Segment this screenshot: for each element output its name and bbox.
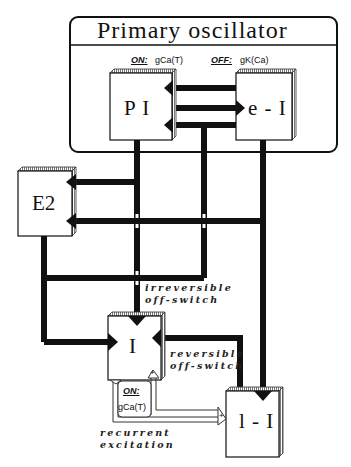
- diagram-canvas: [0, 0, 351, 467]
- node-ei-label: e - I: [248, 96, 287, 121]
- irreversible-line2: off-switch: [145, 294, 233, 306]
- i-on-label: ON:: [123, 386, 140, 396]
- reversible-line1: reversible: [170, 348, 245, 360]
- recurrent-line1: recurrent: [100, 427, 175, 439]
- irreversible-off-switch-label: irreversible off-switch: [145, 282, 233, 306]
- oscillator-on-label: ON:: [131, 55, 148, 65]
- reversible-line2: off-switch: [170, 360, 245, 372]
- node-pi-label: P I: [124, 96, 150, 121]
- i-on-value: gCa(T): [118, 402, 146, 412]
- reversible-off-switch-label: reversible off-switch: [170, 348, 245, 372]
- oscillator-off-value: gK(Ca): [240, 55, 269, 65]
- recurrent-excitation-label: recurrent excitation: [100, 427, 175, 451]
- node-e2-label: E2: [32, 191, 55, 216]
- oscillator-off-label: OFF:: [211, 55, 232, 65]
- node-li-label: l - I: [239, 409, 274, 434]
- node-i-label: I: [129, 334, 137, 359]
- recurrent-line2: excitation: [100, 439, 175, 451]
- irreversible-line1: irreversible: [145, 282, 233, 294]
- plus-sign-i: +: [150, 368, 155, 377]
- plus-sign-li: +: [219, 411, 224, 420]
- oscillator-title: Primary oscillator: [97, 17, 288, 44]
- oscillator-on-value: gCa(T): [155, 55, 183, 65]
